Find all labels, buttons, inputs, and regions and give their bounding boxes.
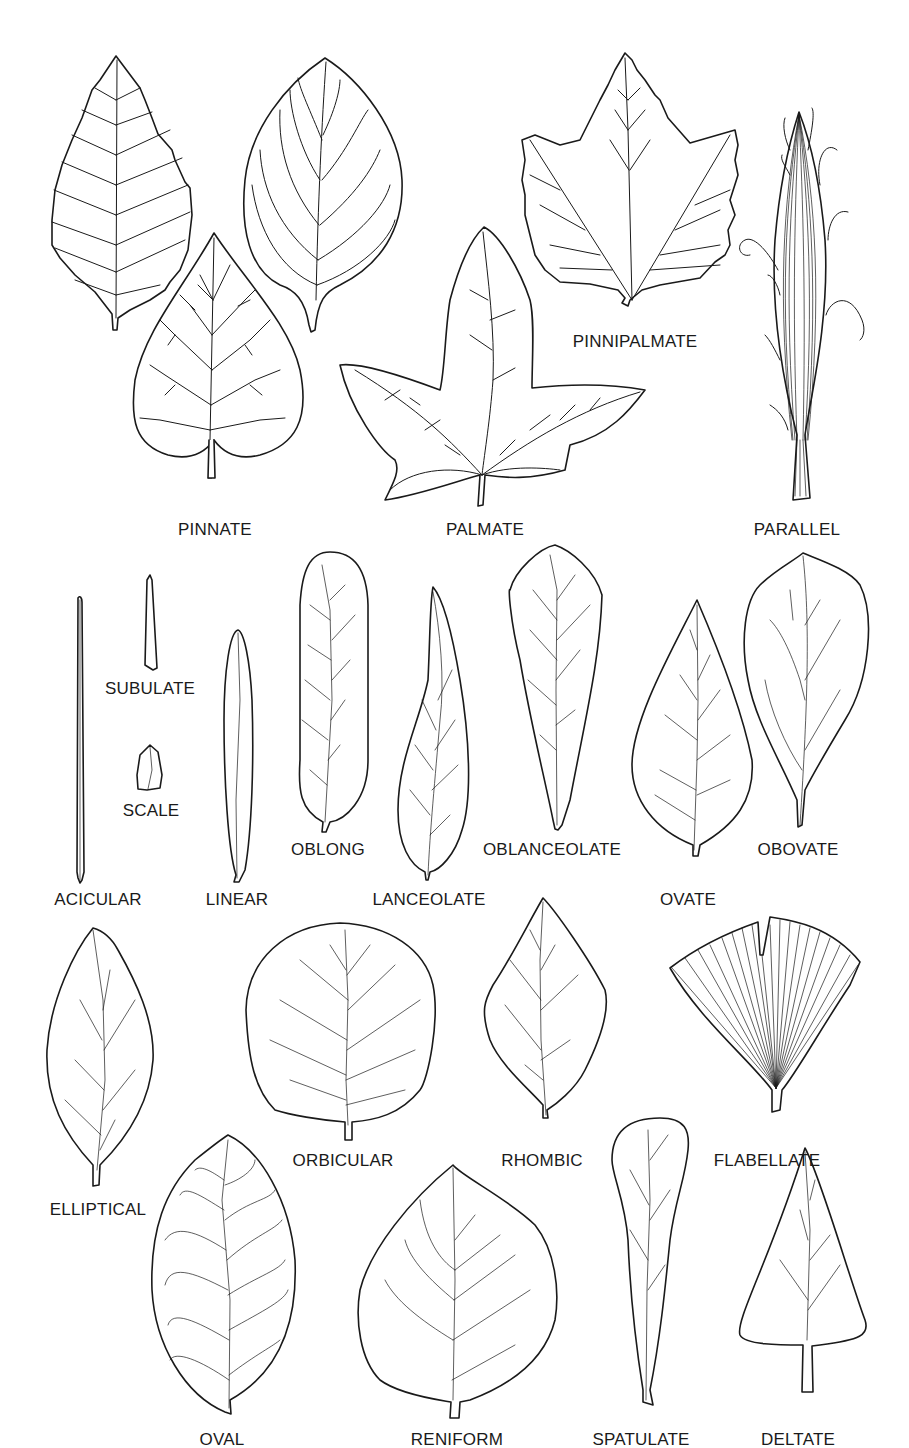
pinnipalmate-leaf-drawing xyxy=(522,53,738,306)
lanceolate-leaf-drawing xyxy=(398,587,469,880)
parallel-leaf-drawing xyxy=(740,108,864,500)
label-flabellate: FLABELLATE xyxy=(714,1152,821,1169)
subulate-leaf-drawing xyxy=(145,575,157,670)
oblanceolate-leaf-drawing xyxy=(509,545,602,830)
label-scale: SCALE xyxy=(123,802,180,819)
label-parallel: PARALLEL xyxy=(754,521,840,538)
ovate-leaf-drawing xyxy=(632,600,752,856)
label-pinnate: PINNATE xyxy=(178,521,252,538)
elliptical-leaf-drawing xyxy=(47,928,153,1186)
label-elliptical: ELLIPTICAL xyxy=(50,1201,147,1218)
orbicular-leaf-drawing xyxy=(246,923,435,1140)
label-palmate: PALMATE xyxy=(446,521,524,538)
label-linear: LINEAR xyxy=(206,891,269,908)
oblong-leaf-drawing xyxy=(299,552,368,832)
label-rhombic: RHOMBIC xyxy=(501,1152,583,1169)
obovate-leaf-drawing xyxy=(744,553,868,827)
label-ovate: OVATE xyxy=(660,891,716,908)
label-reniform: RENIFORM xyxy=(411,1431,503,1448)
pinnate-arcuate-leaf-drawing xyxy=(244,58,402,332)
label-spatulate: SPATULATE xyxy=(592,1431,689,1448)
label-subulate: SUBULATE xyxy=(105,680,195,697)
label-orbicular: ORBICULAR xyxy=(293,1152,394,1169)
label-acicular: ACICULAR xyxy=(54,891,142,908)
rhombic-leaf-drawing xyxy=(484,898,606,1118)
label-oval: OVAL xyxy=(200,1431,245,1448)
label-lanceolate: LANCEOLATE xyxy=(372,891,485,908)
linear-leaf-drawing xyxy=(224,630,253,882)
flabellate-leaf-drawing xyxy=(670,917,860,1112)
label-oblanceolate: OBLANCEOLATE xyxy=(483,841,621,858)
scale-leaf-drawing xyxy=(137,745,162,790)
oval-leaf-drawing xyxy=(152,1135,295,1414)
label-obovate: OBOVATE xyxy=(757,841,838,858)
leaf-illustrations xyxy=(0,0,909,1448)
reniform-leaf-drawing xyxy=(358,1165,557,1418)
label-pinnipalmate: PINNIPALMATE xyxy=(573,333,698,350)
acicular-leaf-drawing xyxy=(77,597,84,883)
leaf-diagram: PINNATE PALMATE PINNIPALMATE PARALLEL SU… xyxy=(0,0,909,1448)
label-oblong: OBLONG xyxy=(291,841,365,858)
spatulate-leaf-drawing xyxy=(612,1118,688,1405)
deltate-leaf-drawing xyxy=(740,1148,867,1392)
label-deltate: DELTATE xyxy=(761,1431,835,1448)
pinnate-serrate-leaf-drawing xyxy=(52,56,192,330)
